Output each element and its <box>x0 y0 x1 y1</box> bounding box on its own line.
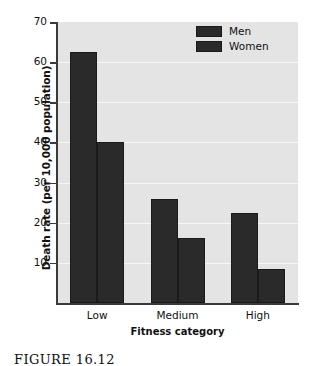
y-axis-tick <box>50 102 57 104</box>
y-axis-tick <box>50 263 57 265</box>
y-axis-tick-label: 50 <box>7 96 47 107</box>
legend-swatch-men <box>196 26 222 37</box>
legend-item-men: Men <box>196 26 269 37</box>
y-axis-tick <box>50 142 57 144</box>
bar-medium-women <box>178 238 205 303</box>
y-axis-tick-label: 30 <box>7 177 47 188</box>
y-axis-tick-label: 20 <box>7 217 47 228</box>
y-axis-tick-label: 40 <box>7 136 47 147</box>
y-axis-tick <box>50 183 57 185</box>
x-axis-label-high: High <box>218 309 298 321</box>
x-axis-label-medium: Medium <box>138 309 218 321</box>
legend-label-men: Men <box>229 26 251 37</box>
x-axis-title: Fitness category <box>57 326 298 337</box>
y-axis-tick-label: 60 <box>7 56 47 67</box>
x-axis-label-low: Low <box>57 309 137 321</box>
legend-item-women: Women <box>196 41 269 52</box>
bar-high-men <box>231 213 258 303</box>
bar-low-women <box>97 142 124 303</box>
y-axis-tick-label: 10 <box>7 257 47 268</box>
plot-area <box>57 22 298 303</box>
legend-swatch-women <box>196 41 222 52</box>
figure-bar-chart: Death rate (per 10,000 population) 10203… <box>0 0 323 366</box>
y-axis-tick <box>50 223 57 225</box>
bar-medium-men <box>151 199 178 303</box>
y-axis-tick <box>50 22 57 24</box>
legend-label-women: Women <box>229 41 269 52</box>
chart-legend: Men Women <box>196 26 269 52</box>
y-axis-tick-label: 70 <box>7 16 47 27</box>
figure-caption: FIGURE 16.12 <box>14 352 115 366</box>
y-axis-line <box>56 22 58 304</box>
bar-high-women <box>258 269 285 303</box>
y-axis-tick <box>50 62 57 64</box>
x-axis-line <box>56 303 299 305</box>
bar-low-men <box>70 52 97 303</box>
